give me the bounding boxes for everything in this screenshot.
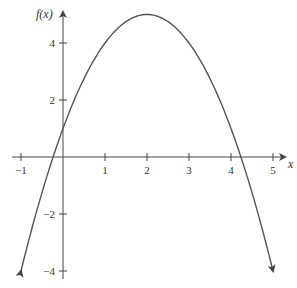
- y-tick-label: −2: [43, 208, 55, 220]
- x-tick-label: 5: [270, 164, 276, 176]
- function-graph: −112345 −4−224 x f(x): [0, 0, 297, 288]
- x-tick-label: 1: [102, 164, 108, 176]
- y-tick-label: −4: [43, 265, 55, 277]
- x-tick-label: −1: [15, 164, 27, 176]
- y-axis-label: f(x): [36, 7, 53, 21]
- x-tick-label: 4: [228, 164, 234, 176]
- x-axis-ticks: −112345: [15, 153, 276, 176]
- y-tick-label: 4: [50, 37, 56, 49]
- y-tick-label: 2: [50, 94, 56, 106]
- x-tick-label: 2: [144, 164, 150, 176]
- x-axis-label: x: [287, 157, 294, 171]
- x-tick-label: 3: [186, 164, 192, 176]
- parabola-curve: [21, 15, 273, 272]
